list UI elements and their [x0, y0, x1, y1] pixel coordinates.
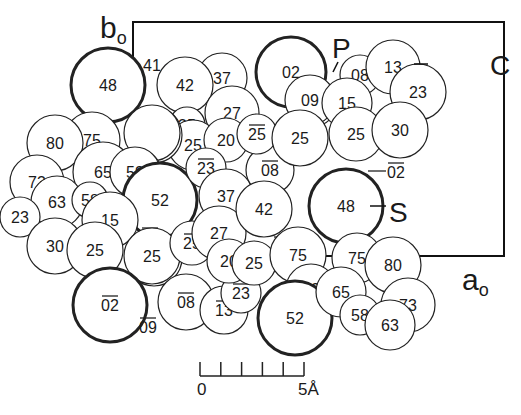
atom-sphere: 02 [73, 268, 147, 342]
atom-height-label: 09 [301, 92, 319, 109]
atom-height-label: 30 [46, 238, 64, 255]
atom-height-label: 20 [217, 132, 235, 149]
molecular-packing-diagram: 4148374227352520758065597363585223153025… [0, 0, 521, 415]
atom-height-label: 25 [143, 248, 161, 265]
atom-height-label: 37 [217, 188, 235, 205]
atom-height-label: 25 [248, 126, 266, 143]
atom-spheres: 4148374227352520758065597363585223153025… [0, 37, 446, 355]
atom-height-label: 65 [94, 164, 112, 181]
atom-height-label: 09 [139, 319, 157, 336]
atom-sphere: 42 [157, 57, 213, 113]
atom-sphere: 30 [372, 102, 428, 158]
atom-sphere: 41 [143, 57, 161, 74]
atom-height-label: 25 [291, 130, 309, 147]
atom-height-label: 30 [391, 122, 409, 139]
atom-height-label: 52 [286, 310, 304, 327]
axis-b-label: bo [100, 11, 127, 48]
atom-height-label: 65 [332, 284, 350, 301]
atom-height-label: 37 [213, 70, 231, 87]
atom-sphere: 09 [139, 318, 157, 336]
atom-height-label: 63 [381, 317, 399, 334]
atom-height-label: 80 [46, 135, 64, 152]
scale-end-label: 5Å [298, 380, 319, 399]
atom-height-label: 02 [101, 297, 119, 314]
atom-height-label: 25 [245, 255, 263, 272]
atom-sphere: 25 [272, 110, 328, 166]
atom-height-label: 25 [86, 242, 104, 259]
atom-height-label: 23 [11, 209, 29, 226]
atom-sphere: 42 [236, 181, 292, 237]
atom-height-label: 25 [347, 126, 365, 143]
scale-bar [200, 362, 304, 376]
atom-sphere: 02 [387, 163, 405, 181]
atom-height-label: 42 [176, 77, 194, 94]
atom-height-label: 48 [99, 77, 117, 94]
atom-height-label: 41 [143, 57, 161, 74]
atom-height-label: 75 [289, 247, 307, 264]
atom-height-label: 08 [261, 162, 279, 179]
atom-height-label: 23 [232, 285, 250, 302]
axis-a-label: ao [462, 263, 489, 300]
atom-height-label: 42 [255, 201, 273, 218]
atom-height-label: 08 [177, 294, 195, 311]
atom-height-label: 23 [409, 84, 427, 101]
sulfur-label: S [389, 197, 408, 228]
atom-sphere: 25 [237, 114, 277, 154]
atom-height-label: 75 [348, 250, 366, 267]
atom-height-label: 52 [151, 192, 169, 209]
atom-height-label: 02 [387, 164, 405, 181]
carbon-label: C [490, 50, 510, 81]
atom-sphere: 63 [365, 300, 415, 350]
atom-height-label: 63 [48, 194, 66, 211]
scale-start-label: 0 [197, 380, 206, 399]
atom-height-label: 80 [384, 257, 402, 274]
phosphorus-label: P [332, 33, 351, 64]
atom-height-label: 48 [337, 198, 355, 215]
atom-sphere: 25 [232, 241, 276, 285]
